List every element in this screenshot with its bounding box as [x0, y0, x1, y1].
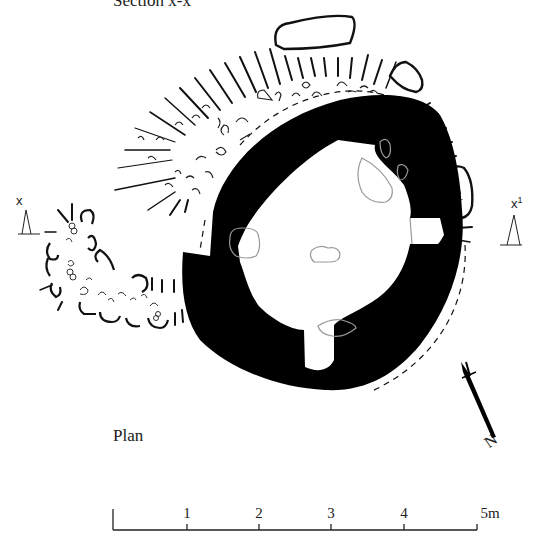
- section-marker-x: [18, 210, 40, 234]
- annex-stones: [46, 210, 168, 328]
- section-marker-x1: [500, 215, 522, 245]
- site-plan-figure: Section x-x Plan x x1 1 2 3 4 5m N: [0, 0, 540, 551]
- plan-drawing: [0, 0, 540, 551]
- scale-bar: [113, 509, 477, 530]
- stone-wall-ring: [182, 95, 463, 390]
- north-arrow-icon: [461, 362, 496, 438]
